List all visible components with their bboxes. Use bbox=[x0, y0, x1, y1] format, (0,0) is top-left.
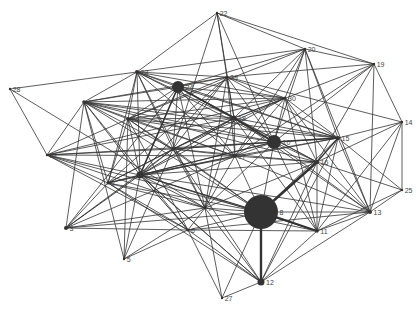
node-label: 16 bbox=[321, 159, 329, 166]
node-5 bbox=[123, 258, 125, 260]
node-label: 6 bbox=[191, 227, 195, 234]
node-label: 15 bbox=[342, 135, 350, 142]
node-2 bbox=[107, 182, 110, 185]
edge-3-6 bbox=[66, 228, 188, 230]
edge-13-30 bbox=[285, 98, 370, 212]
edge-6-27 bbox=[188, 230, 222, 298]
node-7 bbox=[204, 207, 207, 210]
node-15 bbox=[336, 136, 340, 140]
edge-25-11 bbox=[317, 190, 402, 231]
node-label: 4 bbox=[87, 99, 91, 106]
node-23 bbox=[135, 70, 139, 74]
network-graph: 1234567891011121314151617181920212223242… bbox=[0, 0, 420, 309]
node-24 bbox=[172, 81, 184, 93]
edges-layer bbox=[10, 13, 402, 298]
node-label: 11 bbox=[320, 228, 327, 235]
node-4 bbox=[82, 100, 86, 104]
edge-19-13 bbox=[370, 64, 374, 212]
node-26 bbox=[126, 117, 130, 121]
edge-11-6 bbox=[188, 230, 317, 231]
node-label: 17 bbox=[238, 153, 246, 160]
node-label: 21 bbox=[50, 152, 58, 159]
node-label: 5 bbox=[127, 256, 131, 263]
edge-22-19 bbox=[217, 13, 374, 64]
edge-23-22 bbox=[137, 13, 217, 72]
edge-23-28 bbox=[10, 72, 137, 89]
node-21 bbox=[46, 154, 48, 156]
node-17 bbox=[234, 155, 237, 158]
node-label: 14 bbox=[405, 119, 413, 126]
node-14 bbox=[401, 121, 403, 123]
edge-14-16 bbox=[317, 122, 402, 162]
node-label: 13 bbox=[374, 209, 382, 216]
node-label: 3 bbox=[70, 225, 74, 232]
edge-17-21 bbox=[47, 155, 235, 156]
edge-23-20 bbox=[137, 49, 305, 72]
node-19 bbox=[373, 63, 375, 65]
edge-21-28 bbox=[10, 89, 47, 155]
edge-1-23 bbox=[137, 72, 140, 175]
node-label: 9 bbox=[176, 146, 180, 153]
node-label: 23 bbox=[141, 69, 149, 76]
node-label: 7 bbox=[208, 205, 212, 212]
edge-12-6 bbox=[188, 230, 261, 282]
node-11 bbox=[315, 229, 319, 233]
node-label: 25 bbox=[405, 187, 413, 194]
edge-7-27 bbox=[205, 208, 222, 298]
edge-14-13 bbox=[370, 122, 402, 212]
node-label: 20 bbox=[308, 46, 316, 53]
edge-18-26 bbox=[128, 118, 234, 119]
node-18 bbox=[232, 116, 237, 121]
node-29 bbox=[226, 76, 229, 79]
edge-5-6 bbox=[124, 230, 188, 259]
edge-1-21 bbox=[47, 155, 140, 175]
edge-2-3 bbox=[66, 183, 108, 228]
edge-12-11 bbox=[261, 231, 317, 282]
node-label: 22 bbox=[220, 10, 228, 17]
node-label: 10 bbox=[283, 139, 291, 146]
node-27 bbox=[221, 297, 223, 299]
node-label: 19 bbox=[377, 61, 385, 68]
node-3 bbox=[64, 226, 68, 230]
node-30 bbox=[284, 97, 287, 100]
edge-30-4 bbox=[84, 98, 285, 102]
node-28 bbox=[9, 88, 11, 90]
node-22 bbox=[216, 12, 218, 14]
node-label: 12 bbox=[266, 279, 274, 286]
node-25 bbox=[401, 189, 403, 191]
node-1 bbox=[137, 172, 144, 179]
node-label: 28 bbox=[13, 86, 21, 93]
node-label: 18 bbox=[238, 115, 246, 122]
node-label: 29 bbox=[230, 74, 238, 81]
node-13 bbox=[368, 210, 372, 214]
node-label: 26 bbox=[131, 116, 139, 123]
node-label: 30 bbox=[288, 95, 296, 102]
node-20 bbox=[304, 48, 306, 50]
edge-21-6 bbox=[47, 155, 188, 230]
node-9 bbox=[172, 148, 175, 151]
node-label: 8 bbox=[280, 209, 284, 216]
node-label: 24 bbox=[186, 84, 194, 91]
node-12 bbox=[258, 279, 265, 286]
node-8 bbox=[244, 195, 278, 229]
node-6 bbox=[187, 229, 190, 232]
node-label: 1 bbox=[145, 172, 149, 179]
edge-4-2 bbox=[84, 102, 108, 183]
edge-19-14 bbox=[374, 64, 402, 122]
edge-20-30 bbox=[285, 49, 305, 98]
node-label: 2 bbox=[111, 180, 115, 187]
node-16 bbox=[315, 160, 319, 164]
node-label: 27 bbox=[225, 295, 233, 302]
node-10 bbox=[267, 135, 281, 149]
